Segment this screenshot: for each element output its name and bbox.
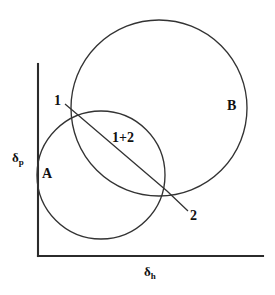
y-axis-label-subscript: p	[19, 157, 24, 167]
y-axis-label-symbol: δ	[12, 150, 19, 165]
circle-b-label: B	[227, 99, 236, 113]
solubility-sphere-diagram: 1 2 1+2 A B δp δh	[0, 0, 275, 295]
overlap-region-label: 1+2	[112, 131, 134, 145]
y-axis-label: δp	[12, 151, 24, 164]
x-axis-label: δh	[144, 265, 156, 278]
intersection-label-1: 1	[54, 94, 61, 108]
intersection-label-2: 2	[190, 209, 197, 223]
x-axis-label-symbol: δ	[144, 264, 151, 279]
circle-b	[71, 20, 247, 196]
circle-a-label: A	[42, 167, 52, 181]
x-axis-label-subscript: h	[151, 271, 156, 281]
diagram-canvas	[0, 0, 275, 295]
